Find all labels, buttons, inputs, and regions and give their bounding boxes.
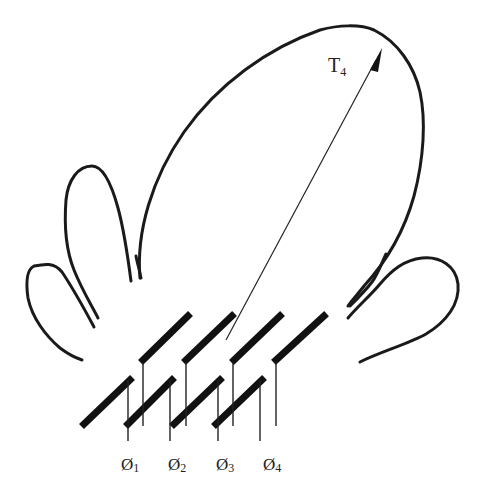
right-side-lobe xyxy=(348,258,458,362)
antenna-element xyxy=(174,380,220,424)
left-side-lobe-2 xyxy=(27,264,94,360)
phase-label-2: Ø2 xyxy=(168,455,186,475)
antenna-element xyxy=(234,316,280,360)
antenna-element xyxy=(216,380,262,424)
antenna-element xyxy=(84,380,130,424)
arrowhead-icon xyxy=(370,48,382,72)
phase-label-3: Ø3 xyxy=(216,455,234,475)
beam-label: T4 xyxy=(328,54,346,79)
element-row-top xyxy=(143,316,324,360)
phase-label-1: Ø1 xyxy=(121,455,139,475)
radiation-pattern-diagram: T4 Ø1 Ø2 Ø3 Ø4 xyxy=(0,0,492,492)
phase-label-4: Ø4 xyxy=(263,455,281,475)
antenna-element xyxy=(276,316,324,360)
antenna-element xyxy=(186,316,232,360)
element-row-bottom xyxy=(84,380,262,424)
antenna-element xyxy=(128,380,172,424)
antenna-element xyxy=(143,316,188,360)
